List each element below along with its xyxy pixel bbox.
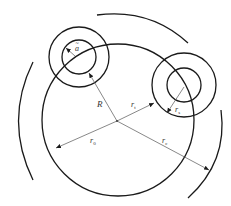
label-r-s: rs [175, 105, 180, 115]
diagram-svg: a ~ R rt rs r0 rc [0, 0, 231, 206]
label-r-c: rc [162, 136, 168, 146]
center-point [116, 120, 118, 122]
right-outer-circle [152, 53, 216, 117]
dimension-a [66, 48, 75, 56]
label-R: R [96, 99, 103, 109]
dimension-r-c [117, 121, 209, 170]
top-left-inner-circle [62, 40, 96, 74]
outer-arc-left [19, 62, 34, 180]
outer-arc-top [97, 14, 188, 43]
outer-arc-right [188, 110, 222, 198]
top-left-outer-circle [49, 27, 109, 87]
label-r-t: rt [131, 100, 136, 110]
label-r-0: r0 [90, 136, 96, 146]
dimension-r-0 [56, 121, 117, 148]
diagram-canvas: a ~ R rt rs r0 rc [0, 0, 231, 206]
dimension-R [89, 73, 117, 121]
right-inner-circle [167, 68, 201, 102]
